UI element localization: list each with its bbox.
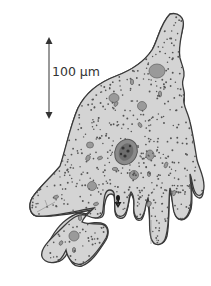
amoeba-detail xyxy=(0,0,211,286)
amoeba-diagram: 100 µm xyxy=(0,0,211,286)
cell-body xyxy=(30,14,204,265)
scale-bar-label: 100 µm xyxy=(52,64,100,79)
